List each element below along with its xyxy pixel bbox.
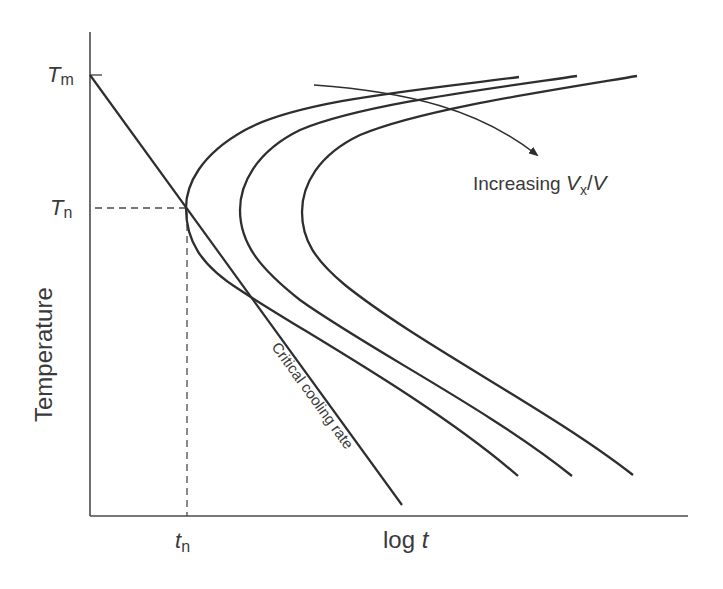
tm-label: Tm [47,62,74,88]
ttt-diagram: Tm Tn Temperature tn log t Increasing Vx… [0,0,723,589]
ttt-curve-3 [302,76,637,475]
increasing-label: Increasing Vx/V [473,171,609,198]
tn-x-label: tn [175,528,190,555]
increasing-arrow [314,85,537,155]
critical-cooling-label: Critical cooling rate [269,339,358,452]
x-axis-title: log t [383,526,430,553]
tn-label: Tn [50,195,72,221]
ttt-curve-2 [240,76,577,476]
y-axis-title: Temperature [30,287,57,422]
